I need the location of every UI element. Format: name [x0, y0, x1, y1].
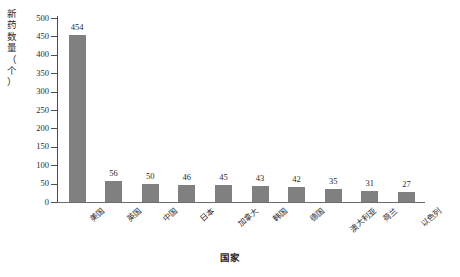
y-axis-tick-label-text: 400 [3, 50, 49, 59]
y-axis-tick-label: 200 [0, 124, 49, 133]
y-axis-tick [51, 55, 57, 56]
y-axis-tick [51, 18, 57, 19]
y-axis-tick [51, 36, 57, 37]
x-axis-category-label: 英国 [125, 206, 143, 223]
y-axis-tick-label: 350 [0, 69, 49, 78]
bar [142, 184, 159, 202]
x-axis-category-label: 日本 [198, 206, 216, 223]
bar [178, 185, 195, 202]
x-axis-category-label: 美国 [88, 206, 106, 223]
y-axis-tick-label-text: 250 [3, 106, 49, 115]
y-axis-tick-label: 50 [0, 179, 49, 188]
bar [288, 187, 305, 202]
x-axis-category-label: 澳大利亚 [348, 206, 378, 234]
y-axis-tick [51, 147, 57, 148]
y-axis-tick [51, 110, 57, 111]
y-axis-tick-label: 150 [0, 142, 49, 151]
bar [69, 35, 86, 202]
y-axis-tick-label-text: 350 [3, 69, 49, 78]
x-axis-category-label: 中国 [161, 206, 179, 223]
bar-value-label: 35 [313, 177, 353, 186]
bar [325, 189, 342, 202]
bar [361, 191, 378, 202]
bar [398, 192, 415, 202]
bar [215, 185, 232, 202]
x-axis-line [57, 202, 425, 203]
bar-value-label: 42 [277, 175, 317, 184]
y-axis-tick-label-text: 100 [3, 161, 49, 170]
x-axis-title: 国家 [0, 250, 460, 264]
bar-value-label: 27 [386, 180, 426, 189]
bar-value-label: 31 [350, 179, 390, 188]
y-axis-tick-label-text: 450 [3, 32, 49, 41]
bar-value-label: 45 [203, 173, 243, 182]
y-axis-tick-label: 450 [0, 32, 49, 41]
y-axis-tick [51, 73, 57, 74]
bar-chart: 新 药 数 量 （ 个 ） 50045040035030025020015010… [0, 0, 460, 277]
y-axis-tick [51, 202, 57, 203]
y-axis-tick-label-text: 150 [3, 142, 49, 151]
x-axis-category-label: 加拿大 [237, 206, 261, 229]
y-axis-tick [51, 184, 57, 185]
bar-value-label: 56 [94, 169, 134, 178]
bar-value-label: 454 [57, 23, 97, 32]
bar [105, 181, 122, 202]
bar [252, 186, 269, 202]
y-axis-tick-label-text: 50 [3, 179, 49, 188]
y-axis-tick-label-text: 300 [3, 87, 49, 96]
x-axis-category-label: 荷兰 [381, 206, 399, 223]
y-axis-tick-label: 400 [0, 50, 49, 59]
bar-value-label: 46 [167, 173, 207, 182]
x-axis-category-label: 德国 [308, 206, 326, 223]
y-axis-tick [51, 92, 57, 93]
x-axis-category-label: 以色列 [420, 206, 444, 229]
y-axis-line [57, 16, 58, 203]
bar-value-label: 43 [240, 174, 280, 183]
y-axis-tick [51, 128, 57, 129]
y-axis-tick-label-text: 200 [3, 124, 49, 133]
x-axis-category-label: 韩国 [271, 206, 289, 223]
y-axis-tick-label-text: 500 [3, 14, 49, 23]
y-axis-tick-label: 500 [0, 14, 49, 23]
y-axis-tick-label: 0 [0, 198, 49, 207]
y-axis-tick-label: 300 [0, 87, 49, 96]
bar-value-label: 50 [130, 172, 170, 181]
y-axis-tick-label: 100 [0, 161, 49, 170]
y-axis-tick [51, 165, 57, 166]
y-axis-tick-label-text: 0 [3, 198, 49, 207]
y-axis-tick-label: 250 [0, 106, 49, 115]
